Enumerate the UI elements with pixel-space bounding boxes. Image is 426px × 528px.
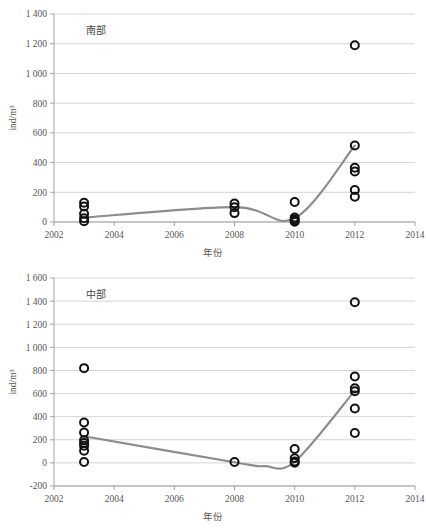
y-tick-label-3: 600 [33, 128, 48, 138]
panel-label: 南部 [86, 24, 106, 36]
x-tick-label-0: 2002 [45, 494, 64, 504]
y-tick-label-1: 0 [42, 458, 47, 468]
x-tick-label-5: 2012 [345, 494, 364, 504]
y-tick-label-8: 1 400 [26, 297, 48, 307]
x-tick-label-6: 2014 [406, 494, 425, 504]
x-tick-label-1: 2004 [105, 230, 124, 240]
data-point [80, 418, 88, 426]
y-tick-label-1: 200 [33, 188, 48, 198]
data-points-group [80, 298, 359, 466]
x-axis-group: 2002200420062008201020122014 [45, 486, 425, 504]
x-tick-label-4: 2010 [285, 494, 304, 504]
data-point [351, 405, 359, 413]
data-point [291, 445, 299, 453]
y-tick-label-5: 800 [33, 366, 48, 376]
y-tick-label-0: 0 [42, 217, 47, 227]
data-point [80, 458, 88, 466]
x-tick-label-2: 2006 [165, 494, 184, 504]
y-tick-label-3: 400 [33, 412, 48, 422]
y-axis-title: ind/m³ [8, 369, 18, 394]
y-tick-label-7: 1 400 [26, 9, 48, 19]
y-tick-label-6: 1 000 [26, 343, 48, 353]
y-tick-label-5: 1 000 [26, 69, 48, 79]
data-point [351, 429, 359, 437]
figure-container: 02004006008001 0001 2001 400200220042006… [0, 0, 426, 528]
chart-panel-top: 02004006008001 0001 2001 400200220042006… [0, 0, 426, 264]
x-tick-label-4: 2010 [285, 230, 304, 240]
x-tick-label-6: 2014 [406, 230, 425, 240]
x-axis-group: 2002200420062008201020122014 [45, 222, 425, 240]
x-tick-label-2: 2006 [165, 230, 184, 240]
trend-line [84, 145, 355, 221]
y-tick-label-9: 1 600 [26, 273, 48, 283]
y-tick-label-4: 800 [33, 99, 48, 109]
y-axis-group: -20002004006008001 0001 2001 4001 600 [26, 273, 54, 491]
y-axis-group: 02004006008001 0001 2001 400 [26, 9, 54, 227]
x-tick-label-0: 2002 [45, 230, 64, 240]
y-tick-label-4: 600 [33, 389, 48, 399]
x-tick-label-5: 2012 [345, 230, 364, 240]
panel-label: 中部 [86, 288, 106, 300]
x-tick-label-3: 2008 [225, 494, 244, 504]
data-point [351, 372, 359, 380]
gridlines-group [54, 14, 415, 222]
data-point [351, 298, 359, 306]
y-tick-label-2: 400 [33, 158, 48, 168]
x-axis-title: 年份 [203, 511, 223, 522]
data-point [291, 198, 299, 206]
y-tick-label-6: 1 200 [26, 39, 48, 49]
x-axis-title: 年份 [203, 247, 223, 258]
y-axis-title: ind/m³ [8, 105, 18, 130]
y-tick-label-2: 200 [33, 435, 48, 445]
x-tick-label-3: 2008 [225, 230, 244, 240]
x-tick-label-1: 2004 [105, 494, 124, 504]
data-point [80, 364, 88, 372]
y-tick-label-7: 1 200 [26, 320, 48, 330]
chart-panel-bottom: -20002004006008001 0001 2001 4001 600200… [0, 264, 426, 528]
trend-line [84, 391, 355, 469]
data-point [351, 41, 359, 49]
y-tick-label-0: -200 [30, 481, 48, 491]
gridlines-group [54, 278, 415, 486]
scatter-chart-central: -20002004006008001 0001 2001 4001 600200… [0, 264, 426, 528]
scatter-chart-south: 02004006008001 0001 2001 400200220042006… [0, 0, 426, 264]
